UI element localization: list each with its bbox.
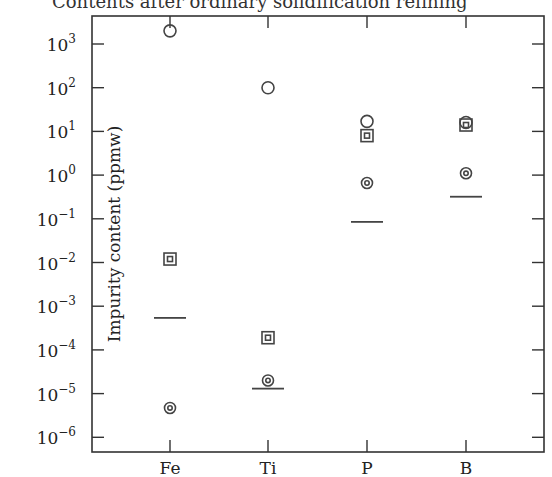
plot-frame: [92, 16, 544, 452]
data-point-square-in-square: [164, 253, 176, 265]
x-ticks: FeTiPB: [160, 16, 473, 477]
y-tick-label: 10−2: [37, 251, 76, 274]
data-point-circle-in-circle: [362, 177, 373, 188]
y-tick-label: 103: [47, 32, 76, 55]
y-tick-label: 10−4: [37, 338, 77, 361]
data-point-square-in-square: [262, 332, 274, 344]
data-point-circle-in-circle: [165, 402, 176, 413]
data-point-circle: [262, 82, 274, 94]
data-points: [154, 25, 482, 414]
x-tick-label: Ti: [260, 458, 277, 477]
data-point-circle: [361, 115, 373, 127]
data-point-square-in-square: [361, 130, 373, 142]
y-tick-label: 10−1: [37, 207, 76, 230]
axes: [92, 16, 544, 452]
x-tick-label: P: [361, 458, 372, 477]
x-tick-label: Fe: [160, 458, 181, 477]
y-tick-label: 10−5: [37, 382, 76, 405]
chart-plot: 10310210110010−110−210−310−410−510−6 FeT…: [0, 0, 552, 477]
y-tick-label: 102: [47, 76, 76, 99]
data-point-circle-in-circle: [461, 168, 472, 179]
y-tick-label: 10−3: [37, 294, 76, 317]
y-tick-label: 101: [47, 119, 76, 142]
y-ticks: 10310210110010−110−210−310−410−510−6: [37, 32, 544, 448]
data-point-circle-in-circle: [263, 375, 274, 386]
x-tick-label: B: [460, 458, 473, 477]
y-tick-label: 10−6: [37, 425, 76, 448]
y-tick-label: 100: [47, 163, 76, 186]
